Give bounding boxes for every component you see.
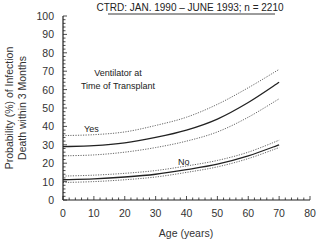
x-tick-label: 0 <box>60 207 66 219</box>
y-tick-label: 90 <box>42 28 54 40</box>
axes: 010203040506070809010001020304050607080 <box>36 10 316 219</box>
y-tick-label: 20 <box>42 157 54 169</box>
legend-title-line1: Ventilator at <box>94 68 142 78</box>
x-tick-label: 20 <box>119 207 131 219</box>
x-tick-label: 60 <box>242 207 254 219</box>
y-tick-label: 10 <box>42 176 54 188</box>
y-tick-label: 0 <box>48 194 54 206</box>
infection-death-probability-chart: 010203040506070809010001020304050607080 … <box>0 0 319 244</box>
x-tick-label: 10 <box>88 207 100 219</box>
x-axis-label: Age (years) <box>159 227 213 239</box>
y-tick-label: 80 <box>42 47 54 59</box>
chart-title: CTRD: JAN. 1990 – JUNE 1993; n = 2210 <box>96 2 283 13</box>
y-tick-label: 30 <box>42 139 54 151</box>
x-tick-label: 80 <box>304 207 316 219</box>
annotation-yes: Yes <box>84 124 99 134</box>
x-tick-label: 40 <box>181 207 193 219</box>
annotation-no: No <box>178 157 190 167</box>
series-yes <box>63 82 279 146</box>
y-tick-label: 40 <box>42 120 54 132</box>
x-tick-label: 50 <box>212 207 224 219</box>
y-tick-label: 70 <box>42 65 54 77</box>
y-tick-label: 100 <box>36 10 54 22</box>
x-tick-label: 30 <box>150 207 162 219</box>
legend-title-line2: Time of Transplant <box>81 81 156 91</box>
x-tick-label: 70 <box>273 207 285 219</box>
y-tick-label: 50 <box>42 102 54 114</box>
y-axis-label-line1: Probability (%) of Infection <box>3 47 15 170</box>
y-axis-label-line2: Death within 3 Months <box>16 56 28 160</box>
y-tick-label: 60 <box>42 84 54 96</box>
